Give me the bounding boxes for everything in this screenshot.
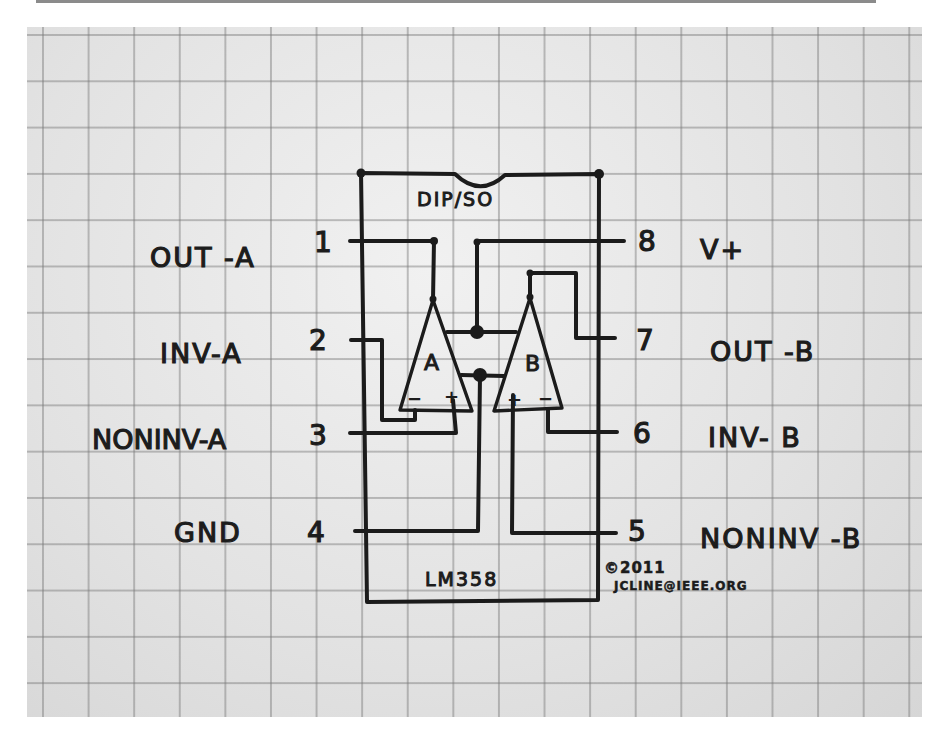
opamp-b-noninv-sign: + — [507, 391, 524, 409]
pin-6-number: 6 — [633, 420, 653, 448]
opamp-a-noninv-sign: + — [444, 388, 461, 406]
pin-4-number: 4 — [307, 519, 327, 547]
opamp-b-inv-sign: − — [538, 390, 555, 408]
pin-3-name: NONINV-A — [92, 426, 226, 453]
pin-5-name: NONINV -B — [700, 525, 862, 552]
pin-8-name: V+ — [700, 236, 745, 263]
opamp-a-inv-sign: − — [407, 390, 424, 408]
pin-4-name: GND — [174, 519, 242, 546]
wire-pin8 — [477, 241, 624, 330]
opamp-a-label: A — [424, 352, 441, 374]
pin-2-number: 2 — [309, 327, 329, 355]
pin-1-number: 1 — [314, 229, 334, 257]
copyright-year: ©2011 — [604, 561, 666, 576]
pin-7-number: 7 — [636, 327, 656, 355]
pin-8-number: 8 — [638, 228, 658, 256]
wire-pin6 — [548, 410, 617, 432]
pin-1-name: OUT -A — [150, 244, 256, 271]
pin-2-name: INV-A — [160, 340, 243, 367]
wire-pin2 — [351, 340, 415, 420]
pin-7-name: OUT -B — [710, 338, 815, 365]
wire-pin7 — [530, 273, 615, 338]
package-label: DIP/SO — [417, 190, 494, 209]
opamp-b-label: B — [525, 353, 542, 375]
pin-6-name: INV- B — [708, 424, 802, 451]
author-email: JCLINE@IEEE.ORG — [614, 580, 748, 592]
pin-3-number: 3 — [309, 422, 329, 450]
part-number-label: LM358 — [425, 570, 498, 589]
schematic-drawing — [0, 0, 948, 738]
pin-5-number: 5 — [628, 518, 648, 546]
